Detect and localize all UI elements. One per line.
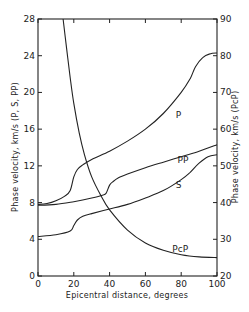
x-axis-ticks: 020406080100 <box>35 19 226 289</box>
y-tick-label: 0 <box>29 271 35 281</box>
curve-labels: PPPSPcP <box>172 110 189 254</box>
y-tick-label: 12 <box>24 161 35 171</box>
curve-label-pcp: PcP <box>172 244 188 254</box>
y2-tick-label: 60 <box>220 124 232 134</box>
y2-tick-label: 80 <box>220 51 232 61</box>
right-y-axis-title: Phase velocity, km/s (PcP) <box>231 91 240 204</box>
curve-pcp <box>63 19 217 258</box>
x-tick-label: 60 <box>140 279 152 289</box>
plot-frame <box>38 19 217 276</box>
x-tick-label: 0 <box>35 279 41 289</box>
y-tick-label: 28 <box>24 14 36 24</box>
axes-box <box>38 19 217 276</box>
x-tick-label: 20 <box>68 279 80 289</box>
y-tick-label: 20 <box>24 87 36 97</box>
y2-tick-label: 30 <box>220 234 232 244</box>
curve-label-s: S <box>176 180 182 190</box>
phase-velocity-chart: 020406080100 0481216202428 2030405060708… <box>0 0 249 312</box>
y2-tick-label: 20 <box>220 271 232 281</box>
y2-tick-label: 90 <box>220 14 232 24</box>
y-tick-label: 24 <box>24 51 36 61</box>
y2-tick-label: 50 <box>220 161 232 171</box>
curve-label-pp: PP <box>178 155 189 165</box>
x-tick-label: 80 <box>175 279 187 289</box>
right-y-axis-ticks: 2030405060708090 <box>213 14 232 281</box>
y-tick-label: 8 <box>29 198 35 208</box>
left-y-axis-title: Phase velocity, km/s (P, S, PP) <box>11 82 20 212</box>
curve-p <box>38 53 217 204</box>
y2-tick-label: 70 <box>220 87 232 97</box>
y-tick-label: 4 <box>29 234 35 244</box>
curves <box>38 19 217 258</box>
y2-tick-label: 40 <box>220 198 232 208</box>
left-y-axis-ticks: 0481216202428 <box>24 14 42 281</box>
x-tick-label: 40 <box>104 279 116 289</box>
curve-label-p: P <box>176 110 182 120</box>
x-axis-title: Epicentral distance, degrees <box>66 291 188 300</box>
y-tick-label: 16 <box>24 124 36 134</box>
